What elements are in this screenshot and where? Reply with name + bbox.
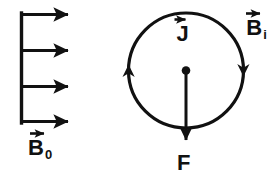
vector-arrow-icon	[174, 16, 191, 23]
label-bi-symbols: B i	[246, 17, 266, 39]
label-b0: B 0	[28, 130, 51, 159]
label-j-symbol: J	[176, 23, 188, 45]
label-b0-symbols: B 0	[28, 137, 51, 159]
physics-figure: B 0 J B i F	[0, 0, 277, 189]
label-b0-subscript: 0	[45, 148, 52, 161]
label-bi: B i	[246, 10, 266, 39]
label-bi-subscript: i	[263, 28, 267, 41]
left-field-group	[20, 13, 68, 123]
vector-arrow-icon	[28, 130, 51, 137]
label-f: F	[177, 152, 190, 174]
label-bi-symbol: B	[246, 17, 262, 39]
label-j: J	[174, 16, 191, 45]
vector-arrow-icon	[246, 10, 266, 17]
label-j-symbols: J	[176, 23, 188, 45]
label-b0-symbol: B	[28, 137, 44, 159]
figure-canvas	[0, 0, 277, 189]
